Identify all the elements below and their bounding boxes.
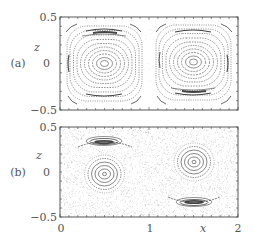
panel-b-ytick-top: 0.5 [40, 121, 58, 134]
panel-a-ytick-zero: 0 [43, 57, 50, 70]
panel-b: 0.5 0 −0.5 z (b) 0 1 2 x [10, 121, 241, 235]
panel-b-ylabel: z [35, 149, 42, 162]
x-axis-label: x [200, 222, 207, 235]
panel-a-left-vortex [67, 26, 142, 101]
panel-a-right-vortex [156, 25, 231, 100]
figure-svg: 0.5 0 −0.5 z (a) [0, 0, 254, 245]
panel-a-right-island [156, 24, 232, 104]
x-tick-1: 1 [147, 222, 154, 235]
panel-b-ytick-zero: 0 [43, 166, 50, 179]
panel-b-label: (b) [10, 166, 26, 179]
poincare-figure: 0.5 0 −0.5 z (a) [0, 0, 254, 245]
x-tick-0: 0 [58, 222, 65, 235]
panel-a-ylabel: z [33, 41, 40, 54]
panel-a-ytick-top: 0.5 [40, 11, 58, 24]
panel-b-ytick-bottom: −0.5 [30, 211, 57, 224]
panel-a: 0.5 0 −0.5 z (a) [10, 11, 238, 117]
x-tick-2: 2 [235, 222, 242, 235]
panel-a-label: (a) [10, 57, 25, 70]
panel-a-ytick-bottom: −0.5 [30, 104, 57, 117]
